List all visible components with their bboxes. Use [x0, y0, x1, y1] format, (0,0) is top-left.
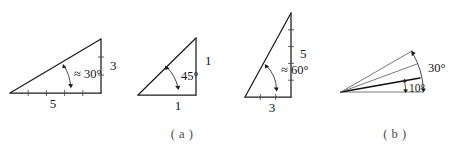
- triangle-30-group: ≈ 30° 5 3: [10, 39, 117, 111]
- triangle-45-group: 45° 1 1: [138, 38, 212, 113]
- triangle-60-angle-arc: [265, 64, 279, 92]
- triangle-45-hypotenuse: [138, 38, 196, 95]
- triangle-30-angle-label: ≈ 30°: [74, 67, 101, 81]
- ray-fan-arc-10: [403, 79, 408, 93]
- figure-canvas: ≈ 30° 5 3 45° 1 1: [0, 0, 455, 149]
- triangle-60-hypotenuse: [245, 13, 291, 97]
- ray-fan-group: 30° 10°: [341, 51, 446, 94]
- figure-root: ≈ 30° 5 3 45° 1 1: [0, 0, 455, 149]
- ray-fan-label-10: 10°: [409, 82, 426, 94]
- triangle-60-group: ≈ 60° 3 5: [245, 13, 308, 115]
- triangle-45-height-label: 1: [205, 53, 212, 68]
- triangle-60-height-label: 5: [300, 46, 307, 61]
- triangle-30-hypotenuse: [10, 39, 101, 93]
- triangle-30-base-label: 5: [50, 96, 57, 111]
- triangle-60-angle-label: ≈ 60°: [281, 63, 308, 77]
- caption-b: ( b ): [383, 127, 406, 141]
- triangle-30-angle-arc: [62, 64, 73, 88]
- triangle-45-base-label: 1: [175, 98, 182, 113]
- caption-a: ( a ): [171, 127, 194, 141]
- triangle-45-angle-arc: [165, 66, 180, 91]
- ray-fan-label-30: 30°: [428, 61, 446, 75]
- triangle-60-base-label: 3: [269, 100, 276, 115]
- triangle-30-height-label: 3: [110, 58, 117, 73]
- triangle-45-angle-label: 45°: [181, 69, 199, 83]
